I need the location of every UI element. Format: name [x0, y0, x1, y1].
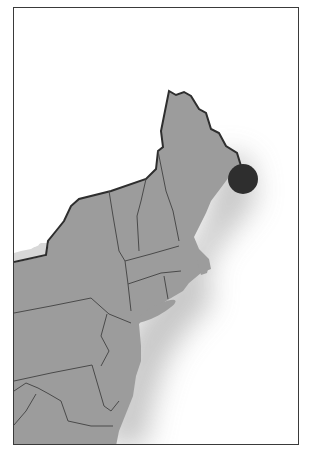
location-marker-dot[interactable]: [228, 164, 258, 194]
map-canvas: [14, 8, 299, 445]
lake-island: [27, 241, 39, 247]
map-frame: [13, 7, 299, 445]
